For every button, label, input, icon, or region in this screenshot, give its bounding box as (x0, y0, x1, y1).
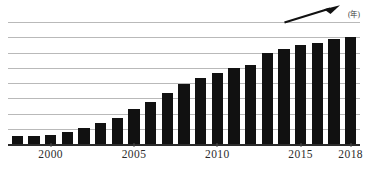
x-axis-tick-mark (50, 143, 51, 147)
bar (212, 73, 223, 144)
bar (278, 49, 289, 144)
bar (162, 93, 173, 144)
x-axis-tick-label: 2000 (38, 148, 63, 160)
bar (78, 128, 89, 144)
bar (95, 123, 106, 144)
bar (245, 65, 256, 144)
x-axis-tick-mark (350, 143, 351, 147)
x-axis-tick-label: 2018 (338, 148, 363, 160)
x-axis-tick-label: 2010 (205, 148, 230, 160)
bar (62, 132, 73, 144)
bar (178, 84, 189, 144)
x-axis-tick-label: 2005 (122, 148, 147, 160)
x-axis-line (8, 144, 360, 146)
bar (128, 109, 139, 144)
bar (295, 45, 306, 144)
bar (12, 136, 23, 144)
bar (262, 53, 273, 144)
x-axis-tick-mark (217, 143, 218, 147)
bar (328, 39, 339, 144)
bar (195, 78, 206, 144)
bar (345, 37, 356, 144)
x-axis-labels: 20002005201020152018 (0, 148, 382, 168)
bar (228, 68, 239, 144)
x-axis-tick-label: 2015 (288, 148, 313, 160)
x-axis-tick-mark (300, 143, 301, 147)
bar-chart: 20002005201020152018 (年) (0, 0, 382, 190)
plot-area (0, 0, 382, 146)
bar (145, 102, 156, 144)
bar (112, 118, 123, 144)
bar (312, 43, 323, 144)
x-axis-tick-mark (134, 143, 135, 147)
upward-trend-arrow-icon (283, 2, 341, 24)
x-axis-unit-label: (年) (348, 8, 360, 19)
bar (28, 136, 39, 144)
